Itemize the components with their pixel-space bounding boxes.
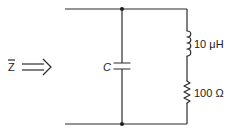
double-arrow-icon — [22, 59, 51, 75]
inductor-label: 10 μH — [194, 38, 224, 50]
capacitor: C — [103, 9, 130, 124]
circuit-diagram: Z C 10 μH 100 Ω — [0, 0, 233, 134]
resistor: 100 Ω — [184, 81, 224, 103]
resistor-label: 100 Ω — [194, 87, 224, 99]
resistor-zigzag-icon — [184, 81, 190, 103]
series-branch: 10 μH 100 Ω — [184, 9, 224, 124]
impedance-label: Z — [8, 60, 15, 73]
impedance-symbol: Z — [8, 61, 15, 73]
capacitor-label: C — [103, 61, 111, 73]
inductor-coil-icon — [187, 31, 191, 56]
inductor: 10 μH — [187, 31, 224, 56]
